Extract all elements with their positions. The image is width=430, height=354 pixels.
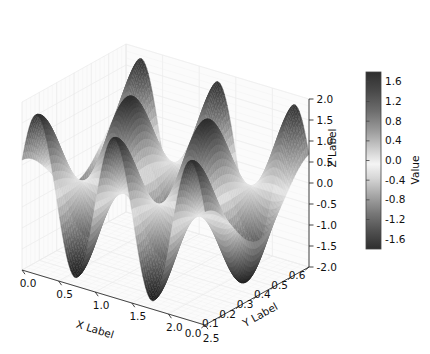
colorbar-tick-label: -0.8 bbox=[385, 193, 406, 205]
colorbar-tick-label: 0.4 bbox=[385, 134, 402, 146]
z-tick-label: -1.5 bbox=[317, 240, 338, 252]
colorbar-tick-labels: 1.61.20.80.40.0-0.4-0.8-1.2-1.6 bbox=[385, 75, 406, 244]
x-tick-label: 1.0 bbox=[93, 299, 110, 311]
y-tick-label: 0.1 bbox=[202, 317, 219, 329]
z-axis-title: Z Label bbox=[326, 129, 338, 168]
y-tick-label: 0.5 bbox=[271, 279, 288, 291]
colorbar-title: Value bbox=[409, 156, 421, 185]
x-tick-label: 0.5 bbox=[56, 288, 73, 300]
z-tick-label: -0.5 bbox=[317, 198, 338, 210]
x-axis-title: X Label bbox=[75, 318, 116, 341]
colorbar-tick-label: 0.0 bbox=[385, 154, 402, 166]
colorbar-tick-label: -1.2 bbox=[385, 213, 406, 225]
colorbar-tick-label: 1.6 bbox=[385, 75, 402, 87]
z-tick-label: -2.0 bbox=[317, 261, 338, 273]
z-tick-label: -1.0 bbox=[317, 219, 338, 231]
colorbar-tick-label: 0.8 bbox=[385, 115, 402, 127]
x-tick-label: 2.5 bbox=[203, 332, 220, 344]
y-tick-label: 0.0 bbox=[185, 327, 202, 339]
x-tick-label: 2.0 bbox=[166, 321, 183, 333]
y-tick-label: 0.2 bbox=[219, 308, 236, 320]
surface-plot-3d: 0.00.51.01.52.02.50.00.10.20.30.40.50.6-… bbox=[0, 0, 430, 354]
x-tick-label: 1.5 bbox=[129, 310, 146, 322]
colorbar-tick-label: 1.2 bbox=[385, 95, 402, 107]
y-tick-label: 0.4 bbox=[254, 288, 271, 300]
z-tick-label: 0.0 bbox=[317, 177, 334, 189]
y-tick-label: 0.6 bbox=[289, 269, 306, 281]
z-tick-label: 2.0 bbox=[317, 93, 334, 105]
colorbar-tick-label: -0.4 bbox=[385, 174, 406, 186]
y-tick-label: 0.3 bbox=[237, 298, 254, 310]
x-tick-label: 0.0 bbox=[20, 277, 37, 289]
colorbar: 1.61.20.80.40.0-0.4-0.8-1.2-1.6 Value bbox=[366, 72, 421, 249]
z-tick-label: 1.5 bbox=[317, 114, 334, 126]
colorbar-tick-label: -1.6 bbox=[385, 233, 406, 245]
figure-canvas: 0.00.51.01.52.02.50.00.10.20.30.40.50.6-… bbox=[0, 0, 430, 354]
